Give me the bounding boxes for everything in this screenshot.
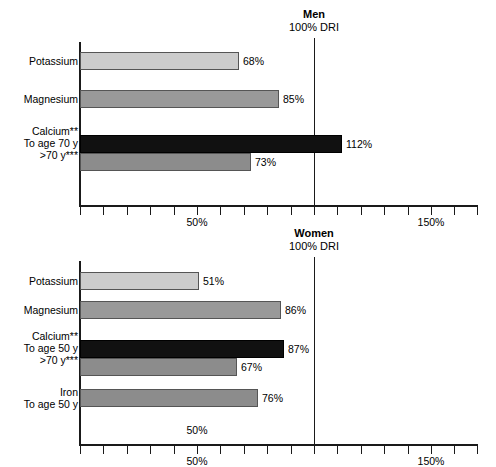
women-tick-90 (291, 445, 292, 454)
women-heading-dri: 100% DRI (254, 240, 374, 253)
women-label-calcium: Calcium** (0, 330, 78, 342)
men-label-potassium: Potassium (0, 55, 78, 67)
women-tick-10 (103, 445, 104, 454)
women-label-calcium-to-age: To age 50 y (0, 342, 78, 354)
men-label-calcium: Calcium** (0, 125, 78, 137)
men-tick-20 (127, 206, 128, 215)
women-tick-120 (361, 445, 362, 454)
plot-area-women: Women 100% DRI (0, 223, 496, 451)
men-tick-50 (197, 206, 198, 215)
men-reference-line-100 (314, 38, 315, 205)
men-label-calcium-over: >70 y*** (0, 149, 78, 161)
men-tick-130 (384, 206, 385, 215)
women-tick-70 (244, 445, 245, 454)
women-bar-calcium-over (80, 358, 237, 376)
men-dri-heading: Men 100% DRI (254, 8, 374, 33)
men-tick-80 (267, 206, 268, 215)
women-tick-160 (454, 445, 455, 454)
women-row-potassium-label: Potassium (0, 275, 78, 287)
men-value-potassium: 68% (243, 55, 264, 67)
women-value-calcium-over: 67% (241, 361, 262, 373)
women-tick-40 (174, 445, 175, 454)
women-xlabel-50-top: 50% (167, 424, 227, 436)
plot-area-men: Men 100% DRI (0, 0, 496, 228)
women-value-magnesium: 86% (285, 304, 306, 316)
women-x-axis (79, 444, 478, 446)
men-tick-90 (291, 206, 292, 215)
men-tick-170 (477, 206, 478, 215)
men-tick-100 (314, 206, 315, 215)
women-bar-iron (80, 389, 258, 407)
men-bar-magnesium (80, 90, 279, 108)
women-tick-30 (150, 445, 151, 454)
women-label-magnesium: Magnesium (0, 304, 78, 316)
women-bar-magnesium (80, 301, 281, 319)
men-tick-120 (361, 206, 362, 215)
men-tick-150 (431, 206, 432, 215)
men-tick-70 (244, 206, 245, 215)
men-bar-calcium-to-age (80, 135, 342, 153)
men-tick-160 (454, 206, 455, 215)
men-tick-60 (220, 206, 221, 215)
women-value-calcium-to-age: 87% (288, 343, 309, 355)
women-value-potassium: 51% (203, 275, 224, 287)
chart-women: Women 100% DRI (0, 223, 496, 451)
men-value-magnesium: 85% (283, 93, 304, 105)
women-tick-50 (197, 445, 198, 454)
women-bar-calcium-to-age (80, 340, 284, 358)
women-dri-heading: Women 100% DRI (254, 227, 374, 252)
women-heading-sex: Women (254, 227, 374, 240)
women-tick-140 (408, 445, 409, 454)
women-label-iron: Iron (0, 386, 78, 398)
men-heading-sex: Men (254, 8, 374, 21)
men-x-axis (79, 205, 478, 207)
men-label-calcium-to-age: To age 70 y (0, 137, 78, 149)
women-label-potassium: Potassium (0, 275, 78, 287)
men-tick-40 (174, 206, 175, 215)
men-value-calcium-to-age: 112% (346, 138, 372, 150)
men-tick-30 (150, 206, 151, 215)
men-tick-110 (337, 206, 338, 215)
men-row-calcium-label: Calcium** To age 70 y >70 y*** (0, 125, 78, 161)
women-tick-130 (384, 445, 385, 454)
women-value-iron: 76% (262, 392, 283, 404)
women-tick-170 (477, 445, 478, 454)
women-label-iron-to-age: To age 50 y (0, 398, 78, 410)
men-bar-calcium-over (80, 153, 251, 171)
chart-men: Men 100% DRI (0, 0, 496, 228)
women-xlabel-50: 50% (167, 455, 227, 467)
men-bar-potassium (80, 52, 239, 70)
women-tick-150 (431, 445, 432, 454)
men-value-calcium-over: 73% (255, 156, 276, 168)
men-row-magnesium-label: Magnesium (0, 93, 78, 105)
women-row-magnesium-label: Magnesium (0, 304, 78, 316)
men-tick-140 (408, 206, 409, 215)
women-tick-100 (314, 445, 315, 454)
men-row-potassium-label: Potassium (0, 55, 78, 67)
women-tick-60 (220, 445, 221, 454)
women-tick-20 (127, 445, 128, 454)
men-tick-0 (80, 206, 81, 215)
men-label-magnesium: Magnesium (0, 93, 78, 105)
women-bar-potassium (80, 272, 199, 290)
women-row-calcium-label: Calcium** To age 50 y >70 y*** (0, 330, 78, 366)
women-xlabel-150: 150% (401, 455, 461, 467)
women-tick-0 (80, 445, 81, 454)
men-tick-10 (103, 206, 104, 215)
women-label-calcium-over: >70 y*** (0, 354, 78, 366)
women-row-iron-label: Iron To age 50 y (0, 386, 78, 410)
women-tick-80 (267, 445, 268, 454)
women-reference-line-100 (314, 257, 315, 444)
men-heading-dri: 100% DRI (254, 21, 374, 34)
women-tick-110 (337, 445, 338, 454)
